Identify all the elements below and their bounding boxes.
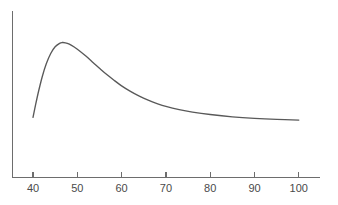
- x-tick-label-40: 40: [27, 182, 39, 194]
- x-tick-label-90: 90: [248, 182, 260, 194]
- x-axis-tick-labels: 405060708090100: [27, 182, 308, 194]
- x-axis-tick-marks: [33, 172, 299, 178]
- line-chart-plot: 405060708090100: [0, 0, 338, 205]
- x-tick-label-100: 100: [290, 182, 308, 194]
- x-tick-label-70: 70: [160, 182, 172, 194]
- chart-series-group: [33, 43, 299, 121]
- x-tick-label-60: 60: [115, 182, 127, 194]
- data-curve-curve: [33, 43, 299, 121]
- chart-container: 405060708090100: [0, 0, 338, 205]
- x-tick-label-50: 50: [71, 182, 83, 194]
- x-tick-label-80: 80: [204, 182, 216, 194]
